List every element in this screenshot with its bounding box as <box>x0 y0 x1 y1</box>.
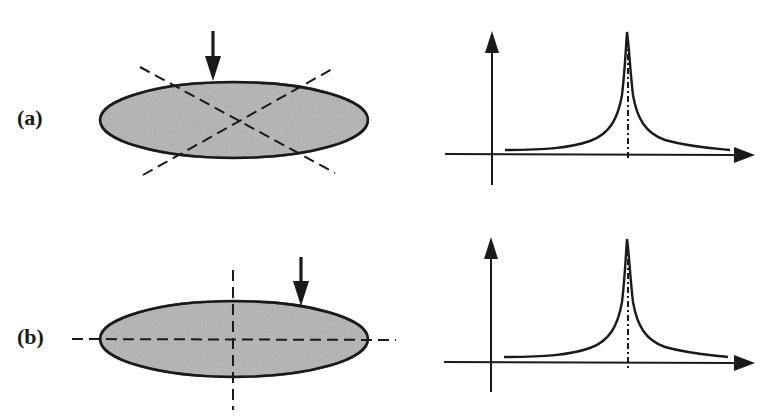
response-chart-a <box>445 31 755 185</box>
force-arrow-icon <box>205 31 221 81</box>
panel-b <box>72 237 755 410</box>
x-axis-arrow-icon <box>734 147 755 163</box>
y-axis-arrow-icon <box>484 237 498 259</box>
response-chart-b <box>444 237 755 392</box>
force-arrow-icon <box>293 257 309 306</box>
x-axis-arrow-icon <box>734 355 755 371</box>
x-axis <box>445 154 737 155</box>
y-axis-arrow-icon <box>485 31 499 53</box>
panel-a <box>100 31 755 185</box>
resonance-curve <box>505 32 730 150</box>
resonance-curve <box>504 239 728 357</box>
figure-canvas <box>0 0 777 419</box>
x-axis <box>444 362 737 363</box>
